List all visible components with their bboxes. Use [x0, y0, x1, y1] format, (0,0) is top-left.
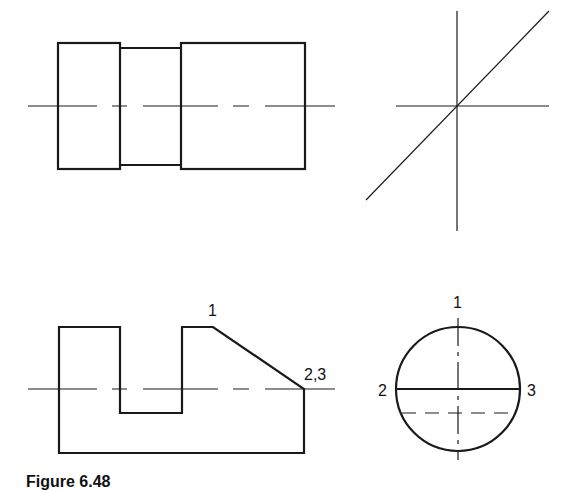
side-view-label-3: 3 [527, 382, 536, 399]
front-view-label-1: 1 [208, 302, 217, 319]
front-view-label-2-3: 2,3 [304, 366, 326, 383]
side-view-label-1: 1 [453, 294, 462, 311]
side-view-label-2: 2 [378, 382, 387, 399]
miter-construction [366, 11, 549, 231]
front-view: 1 2,3 [28, 302, 335, 453]
figure-caption: Figure 6.48 [26, 474, 110, 490]
top-view [28, 43, 335, 169]
side-view: 1 2 3 [378, 294, 536, 460]
front-view-outline [59, 327, 304, 453]
